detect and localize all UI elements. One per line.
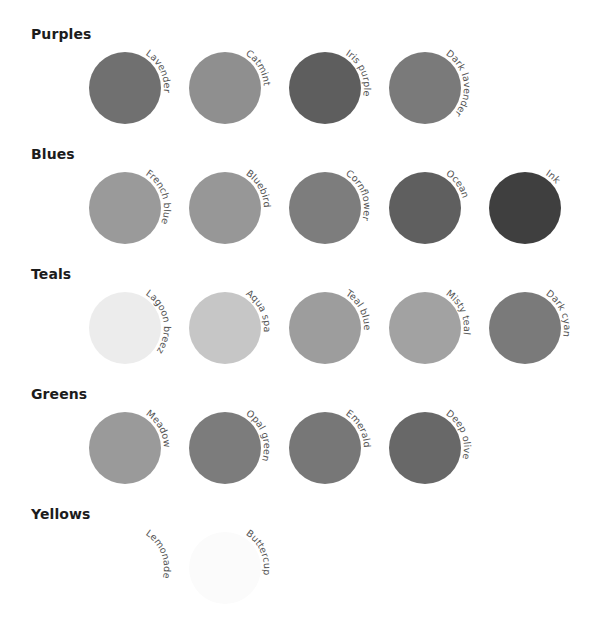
swatch-circle[interactable] — [289, 172, 361, 244]
swatch-cornflower[interactable]: Cornflower — [289, 167, 373, 244]
swatch-circle[interactable] — [89, 52, 161, 124]
swatch-aqua-spa[interactable]: Aqua spa — [189, 287, 273, 364]
swatch-catmint[interactable]: Catmint — [189, 47, 273, 124]
swatch-meadow[interactable]: Meadow — [89, 407, 173, 484]
swatch-circle[interactable] — [189, 172, 261, 244]
swatch-circle[interactable] — [489, 292, 561, 364]
swatch-misty-teal[interactable]: Misty teal — [389, 287, 473, 364]
swatch-circle[interactable] — [289, 412, 361, 484]
swatch-lemonade[interactable]: Lemonade — [89, 527, 173, 604]
swatch-opal-green[interactable]: Opal green — [189, 407, 273, 484]
swatch-circle[interactable] — [89, 292, 161, 364]
swatch-circle[interactable] — [89, 532, 161, 604]
swatch-circle[interactable] — [189, 292, 261, 364]
swatch-circle[interactable] — [189, 412, 261, 484]
swatch-deep-olive[interactable]: Deep olive — [389, 407, 473, 484]
swatch-circle[interactable] — [189, 532, 261, 604]
swatch-circle[interactable] — [89, 412, 161, 484]
swatch-ink[interactable]: Ink — [489, 167, 563, 244]
swatch-bluebird[interactable]: Bluebird — [189, 167, 273, 244]
swatch-ocean[interactable]: Ocean — [389, 167, 472, 244]
swatch-circle[interactable] — [189, 52, 261, 124]
swatch-circle[interactable] — [389, 412, 461, 484]
swatch-emerald[interactable]: Emerald — [289, 407, 373, 484]
swatch-grid: LavenderCatmintIris purpleDark lavenderF… — [0, 0, 590, 621]
swatch-french-blue[interactable]: French blue — [89, 167, 173, 244]
swatch-dark-lavender[interactable]: Dark lavender — [389, 47, 473, 124]
swatch-dark-cyan[interactable]: Dark cyan — [489, 287, 573, 364]
swatch-circle[interactable] — [289, 292, 361, 364]
swatch-iris-purple[interactable]: Iris purple — [289, 47, 373, 124]
swatch-circle[interactable] — [389, 172, 461, 244]
swatch-circle[interactable] — [89, 172, 161, 244]
swatch-buttercup[interactable]: Buttercup — [189, 527, 273, 604]
swatch-teal-blue[interactable]: Teal blue — [289, 287, 373, 364]
swatch-circle[interactable] — [389, 52, 461, 124]
swatch-circle[interactable] — [489, 172, 561, 244]
swatch-circle[interactable] — [389, 292, 461, 364]
swatch-circle[interactable] — [289, 52, 361, 124]
swatch-lavender[interactable]: Lavender — [89, 47, 173, 124]
